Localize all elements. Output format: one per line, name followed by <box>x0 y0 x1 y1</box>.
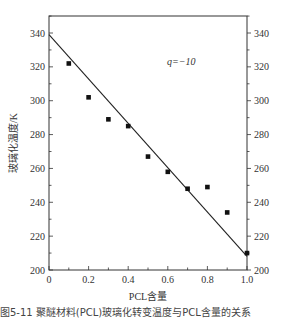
y-tick-label-right: 200 <box>254 265 269 276</box>
y-tick-label-left: 260 <box>30 163 45 174</box>
y-tick-label-left: 320 <box>30 61 45 72</box>
data-point-square <box>106 117 111 122</box>
x-tick-label: 0.4 <box>122 274 135 285</box>
y-tick-label-right: 280 <box>254 129 269 140</box>
x-tick-label: 0.2 <box>82 274 95 285</box>
data-point-square <box>166 170 171 175</box>
x-tick-label: 1.0 <box>241 274 254 285</box>
q-annotation: q=−10 <box>167 56 196 67</box>
y-tick-label-right: 300 <box>254 95 269 106</box>
data-point-square <box>86 95 91 100</box>
y-tick-label-left: 300 <box>30 95 45 106</box>
y-tick-label-right: 320 <box>254 61 269 72</box>
y-tick-label-right: 260 <box>254 163 269 174</box>
x-axis-title: PCL含量 <box>129 290 167 302</box>
data-point-square <box>67 61 72 66</box>
y-tick-label-left: 340 <box>30 28 45 39</box>
y-tick-label-right: 240 <box>254 197 269 208</box>
y-tick-label-left: 240 <box>30 197 45 208</box>
x-tick-label: 0.6 <box>162 274 175 285</box>
data-point-square <box>146 154 151 159</box>
y-tick-label-left: 220 <box>30 231 45 242</box>
figure-caption: 图5-11 聚醚材料(PCL)玻璃化转变温度与PCL含量的关系 <box>0 304 282 319</box>
y-tick-label-right: 340 <box>254 28 269 39</box>
y-tick-label-left: 280 <box>30 129 45 140</box>
y-tick-label-left: 200 <box>30 265 45 276</box>
data-point-square <box>205 185 210 190</box>
plot-frame <box>49 16 247 270</box>
data-point-square <box>185 186 190 191</box>
y-axis-title: 玻璃化温度/K <box>7 112 19 173</box>
data-point-square <box>126 124 131 129</box>
y-tick-label-right: 220 <box>254 231 269 242</box>
data-point-square <box>245 251 250 256</box>
fit-line <box>49 35 247 257</box>
x-tick-label: 0.8 <box>201 274 214 285</box>
x-tick-label: 0 <box>47 274 52 285</box>
data-point-square <box>225 210 230 215</box>
